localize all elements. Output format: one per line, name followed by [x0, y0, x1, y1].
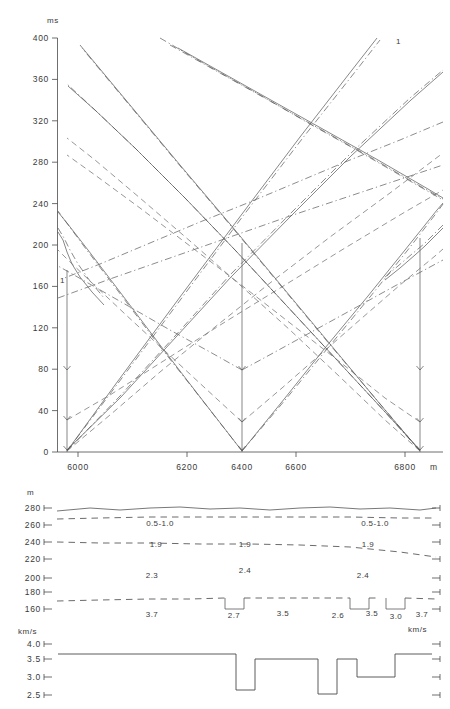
depth-ytick-220: 220 — [25, 554, 41, 564]
layer3-base-seg4 — [405, 598, 436, 599]
ytick-200: 200 — [33, 240, 49, 250]
curve-left-shallowest-dash — [67, 190, 443, 420]
ann-37-left: 3.7 — [146, 610, 158, 619]
vel-ytick-35: 3.5 — [27, 654, 41, 664]
depth-ytick-160: 160 — [25, 604, 41, 614]
vel-ytick-30: 3.0 — [27, 672, 41, 682]
ytick-360: 360 — [33, 74, 49, 84]
ann-23: 2.3 — [146, 571, 158, 580]
ann-weathering-right: 0.5-1.0 — [361, 519, 389, 528]
depth-ytick-240: 240 — [25, 537, 41, 547]
depth-model-panel: m 280 260 240 220 200 180 160 — [25, 488, 440, 621]
curve-right-deep-solid — [80, 45, 420, 451]
curve-upper-cross-c — [160, 38, 443, 200]
traveltime-y-ticks — [52, 38, 58, 452]
velocity-y-unit-right: km/s — [408, 625, 427, 634]
topography-line — [57, 507, 436, 511]
ann-24-right: 2.4 — [357, 571, 369, 580]
ann-19-right: 1.9 — [362, 540, 374, 549]
ann-27: 2.7 — [228, 611, 240, 620]
vel-ytick-25: 2.5 — [27, 690, 41, 700]
ann-37-right: 3.7 — [416, 610, 428, 619]
ytick-400: 400 — [33, 33, 49, 43]
velocity-y-tick-labels: 4.0 3.5 3.0 2.5 — [27, 639, 41, 700]
layer3-base-seg1 — [57, 598, 225, 601]
ann-19-left: 1.9 — [150, 540, 162, 549]
curve-center-shallow-left — [58, 250, 242, 422]
curve-center-slow-right — [242, 260, 443, 370]
ytick-280: 280 — [33, 157, 49, 167]
ann-30: 3.0 — [390, 612, 402, 621]
ann-26: 2.6 — [332, 611, 344, 620]
ann-weathering-left: 0.5-1.0 — [146, 519, 174, 528]
traveltime-y-unit: ms — [47, 16, 59, 25]
ann-19-mid: 1.9 — [239, 540, 251, 549]
curve-left-mid-dash — [67, 70, 443, 451]
ytick-240: 240 — [33, 199, 49, 209]
ann-35-a: 3.5 — [277, 609, 289, 618]
ytick-160: 160 — [33, 281, 49, 291]
branch-label-left: 1 — [60, 276, 65, 285]
depth-left-ticks — [44, 505, 52, 612]
depth-ytick-280: 280 — [25, 503, 41, 513]
shot-point-markers — [64, 366, 424, 450]
depth-y-tick-labels: 280 260 240 220 200 180 160 — [25, 503, 41, 614]
curve-right-apex — [385, 228, 443, 280]
curve-branch-1-left — [58, 165, 443, 298]
seismic-refraction-figure: ms 400 360 320 280 240 200 160 12 — [0, 0, 450, 709]
ytick-320: 320 — [33, 116, 49, 126]
ytick-0: 0 — [44, 447, 49, 457]
xtick-6200: 6200 — [176, 462, 198, 472]
velocity-step-curve — [58, 654, 432, 694]
ann-35-b: 3.5 — [366, 609, 378, 618]
velocity-left-ticks — [44, 641, 52, 698]
curve-right-apex-dash — [384, 225, 443, 278]
xtick-6400: 6400 — [231, 462, 253, 472]
depth-ytick-260: 260 — [25, 520, 41, 530]
vel-ytick-40: 4.0 — [27, 639, 41, 649]
traveltime-curves — [58, 38, 443, 451]
ann-24-mid: 2.4 — [239, 566, 251, 575]
curve-center-slow-left — [58, 266, 242, 370]
curve-right-shallow-dash — [67, 138, 420, 451]
traveltime-panel: ms 400 360 320 280 240 200 160 12 — [33, 16, 443, 472]
curve-center-right-solid — [242, 203, 443, 451]
traveltime-y-tick-labels: 400 360 320 280 240 200 160 120 80 40 0 — [33, 33, 49, 457]
curve-left-shallow-dash — [67, 153, 443, 451]
curve-left-deep-dash — [67, 40, 380, 451]
ytick-40: 40 — [38, 406, 49, 416]
curve-left-mid-solid — [67, 72, 443, 450]
branch-label-right: 1 — [396, 37, 401, 46]
velocity-y-unit-left: km/s — [18, 627, 37, 636]
depth-ytick-180: 180 — [25, 587, 41, 597]
ytick-120: 120 — [33, 323, 49, 333]
depth-ytick-200: 200 — [25, 573, 41, 583]
depth-right-ticks — [432, 505, 440, 612]
velocity-model-panel: km/s km/s 4.0 3.5 3.0 2.5 — [18, 625, 440, 700]
xtick-6000: 6000 — [67, 462, 89, 472]
traveltime-x-ticks — [78, 452, 405, 457]
curve-upper-cross-a — [170, 45, 443, 199]
curve-right-shallowest-dash — [67, 155, 420, 422]
traveltime-x-tick-labels: 6000 6200 6400 6600 6800 m — [67, 462, 438, 472]
xtick-6600: 6600 — [285, 462, 307, 472]
xtick-6800: 6800 — [394, 462, 416, 472]
traveltime-x-unit: m — [430, 462, 438, 472]
ytick-80: 80 — [38, 364, 49, 374]
depth-y-unit: m — [27, 488, 34, 497]
velocity-right-ticks — [432, 641, 440, 698]
figure-svg: ms 400 360 320 280 240 200 160 12 — [0, 0, 450, 709]
